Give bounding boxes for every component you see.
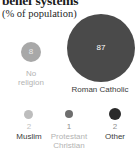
bubble-value-roman-catholic: 87: [67, 43, 135, 52]
bubble-value-other: 2: [100, 122, 130, 131]
bubble-muslim[interactable]: [24, 110, 33, 119]
bubble-protestant-christian[interactable]: [65, 110, 73, 118]
bubble-label-other: Other: [95, 133, 135, 142]
bubble-value-muslim: 2: [14, 122, 44, 131]
belief-systems-bubble-chart: belief systems (% of population) 87 Roma…: [0, 0, 140, 150]
bubble-label-no-religion-line2: religion: [11, 79, 51, 88]
bubble-label-roman-catholic: Roman Catholic: [60, 86, 140, 95]
chart-title: belief systems: [2, 0, 138, 7]
bubble-label-muslim: Muslim: [9, 133, 49, 142]
bubble-value-no-religion: 8: [21, 47, 41, 56]
bubble-other[interactable]: [109, 108, 121, 120]
bubble-value-protestant-christian: 1: [54, 122, 84, 131]
bubble-label-protestant-christian-line2: Christian: [46, 142, 92, 150]
